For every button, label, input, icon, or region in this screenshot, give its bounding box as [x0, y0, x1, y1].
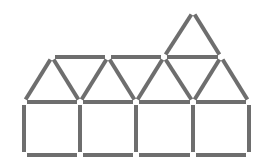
matchstick-diag-8 [223, 60, 248, 100]
matchstick-diagram [0, 0, 269, 164]
matchstick-diag-6 [166, 60, 192, 100]
matchstick-diag-3 [82, 60, 107, 100]
matchstick-top-left [166, 15, 192, 55]
matchstick-diag-1 [26, 60, 51, 100]
matchstick-diag-5 [138, 60, 163, 100]
matchstick-diag-2 [54, 60, 79, 100]
matchstick-top-right [195, 15, 220, 55]
matchstick-diag-4 [110, 60, 135, 100]
matchstick-diag-7 [195, 60, 220, 100]
matchstick-canvas [0, 0, 269, 164]
